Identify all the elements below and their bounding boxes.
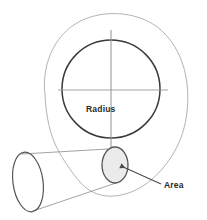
small-cross-section-ellipse: [102, 147, 128, 183]
large-cone-base-ellipse: [9, 150, 47, 214]
area-label: Area: [164, 180, 184, 190]
radius-label: Radius: [86, 104, 116, 114]
area-leader-line: [121, 166, 161, 184]
cone-frustum-bottom-edge: [33, 183, 116, 211]
cone-frustum-top-edge: [22, 149, 108, 154]
diagram-canvas: Radius Area: [0, 0, 207, 220]
